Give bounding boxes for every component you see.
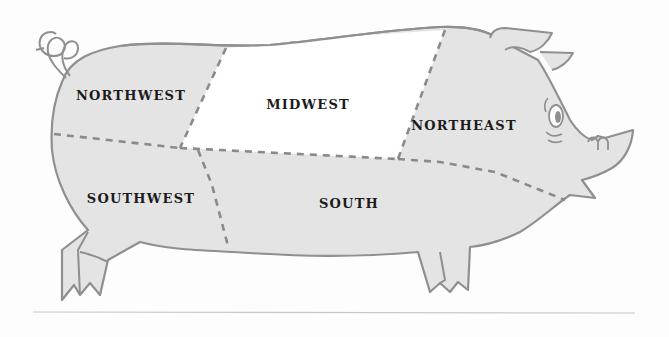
region-label-northeast: NORTHEAST: [411, 118, 517, 133]
pig-illustration: NORTHWEST MIDWEST NORTHEAST SOUTHWEST SO…: [0, 0, 669, 337]
region-label-southwest: SOUTHWEST: [87, 191, 195, 206]
divider-rule: [33, 312, 635, 313]
region-label-south: SOUTH: [319, 196, 379, 211]
region-label-northwest: NORTHWEST: [76, 88, 186, 103]
region-label-midwest: MIDWEST: [266, 97, 350, 112]
pig-region-diagram: NORTHWEST MIDWEST NORTHEAST SOUTHWEST SO…: [0, 0, 669, 337]
